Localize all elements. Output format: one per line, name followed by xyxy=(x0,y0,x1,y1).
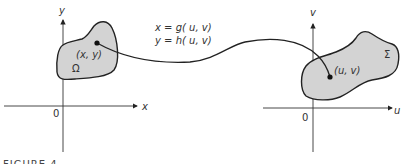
point-xy-label: (x, y) xyxy=(76,49,102,60)
left-y-axis-label: y xyxy=(58,5,66,16)
mapping-equation-y: y = h( u, v) xyxy=(154,35,212,46)
right-u-axis-label: u xyxy=(394,105,400,116)
figure-caption: FIGURE 4 xyxy=(3,159,58,164)
right-v-axis-label: v xyxy=(310,7,317,18)
transformation-diagram: y x 0 Ω (x, y) x = g( u, v) y = h( u, v)… xyxy=(0,0,406,164)
point-xy xyxy=(94,40,99,45)
mapping-equation-x: x = g( u, v) xyxy=(154,22,212,33)
region-sigma-label: Σ xyxy=(384,49,390,60)
point-uv-label: (u, v) xyxy=(334,65,360,76)
point-uv xyxy=(327,74,332,79)
left-x-axis-label: x xyxy=(141,101,148,112)
mapping-curve xyxy=(97,39,330,77)
left-origin-label: 0 xyxy=(53,108,59,119)
right-origin-label: 0 xyxy=(302,112,308,123)
region-omega-label: Ω xyxy=(72,63,80,74)
